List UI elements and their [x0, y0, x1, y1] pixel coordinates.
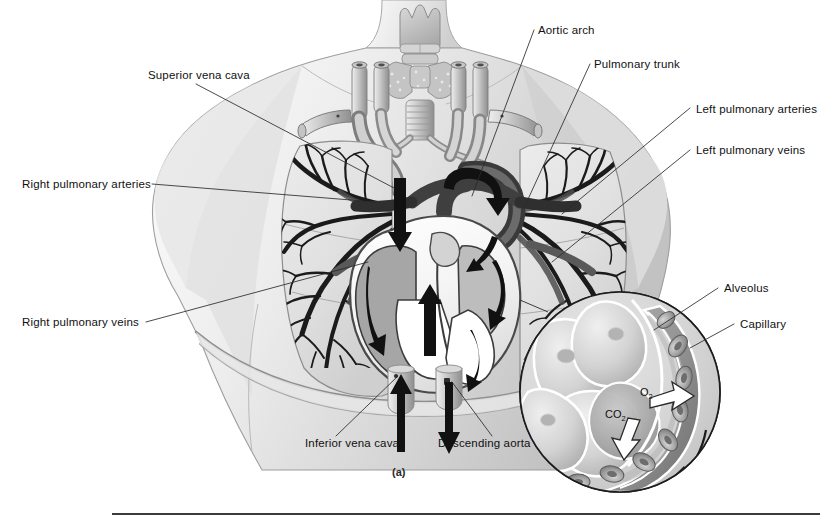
- o2-subscript: 2: [649, 392, 653, 401]
- label-co2: CO2: [605, 408, 626, 423]
- figure-page: Superior vena cava Right pulmonary arter…: [0, 0, 828, 519]
- label-superior-vena-cava: Superior vena cava: [148, 69, 250, 82]
- label-right-pulmonary-arteries: Right pulmonary arteries: [22, 178, 151, 191]
- label-alveolus: Alveolus: [724, 282, 769, 295]
- panel-caption: (a): [392, 466, 405, 478]
- label-o2: O2: [640, 386, 653, 401]
- bottom-divider: [112, 513, 820, 515]
- o2-symbol: O: [640, 386, 649, 398]
- label-pulmonary-trunk: Pulmonary trunk: [594, 58, 680, 71]
- anatomical-illustration: [0, 0, 828, 519]
- co2-symbol: CO: [605, 408, 622, 420]
- co2-subscript: 2: [622, 414, 626, 423]
- label-right-pulmonary-veins: Right pulmonary veins: [22, 316, 139, 329]
- label-left-pulmonary-veins: Left pulmonary veins: [696, 144, 805, 157]
- label-aortic-arch: Aortic arch: [538, 24, 595, 37]
- label-capillary: Capillary: [740, 318, 786, 331]
- label-inferior-vena-cava: Inferior vena cava: [305, 437, 399, 450]
- label-left-pulmonary-arteries: Left pulmonary arteries: [696, 103, 817, 116]
- label-descending-aorta: Descending aorta: [438, 437, 531, 450]
